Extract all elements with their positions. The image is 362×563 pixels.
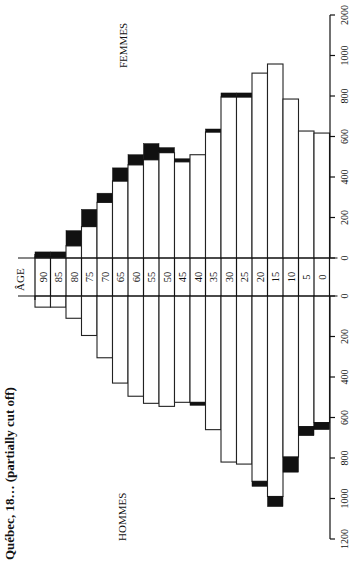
age-tick-label-15: 15 [270, 272, 281, 283]
femmes-bar-80 [66, 246, 82, 258]
hommes-bar-80 [66, 296, 82, 318]
axis-tick-label-600: 600 [339, 410, 350, 425]
femmes-bar-75 [82, 227, 98, 258]
hommes-bar-70 [97, 296, 113, 358]
age-tick-label-60: 60 [131, 272, 142, 283]
hommes-bar-5 [299, 296, 315, 427]
hommes-label: HOMMES [116, 493, 128, 541]
axis-tick-label-1000: 1000 [339, 46, 350, 66]
hommes-bar-30 [221, 296, 237, 462]
hommes-bars [35, 296, 330, 507]
age-axis-label: ÂGE [14, 268, 26, 291]
femmes-bar-45 [175, 162, 191, 258]
hommes-excess-5 [299, 427, 315, 436]
femmes-bar-10 [283, 99, 299, 258]
femmes-bar-20 [252, 73, 268, 258]
hommes-excess-15 [268, 496, 284, 506]
age-tick-label-75: 75 [84, 272, 95, 283]
axis-tick-label-800: 800 [339, 451, 350, 466]
femmes-excess-90 [35, 252, 51, 257]
age-tick-label-50: 50 [162, 272, 173, 283]
hommes-bar-55 [144, 296, 160, 403]
axis-tick-label-800: 800 [339, 89, 350, 104]
hommes-bar-75 [82, 296, 98, 335]
hommes-bar-40 [190, 296, 206, 402]
femmes-axis: 020040060080010002000 [330, 5, 350, 261]
hommes-bar-0 [314, 296, 330, 423]
hommes-bar-65 [113, 296, 129, 383]
femmes-bar-40 [190, 155, 206, 258]
age-tick-label-65: 65 [115, 272, 126, 283]
femmes-bar-55 [144, 160, 160, 258]
axis-tick-label-2000: 2000 [339, 5, 350, 25]
axis-tick-label-200: 200 [339, 329, 350, 344]
femmes-bar-15 [268, 64, 284, 258]
axis-tick-label-1200: 1200 [339, 529, 350, 549]
hommes-excess-40 [190, 402, 206, 405]
axis-tick-label-200: 200 [339, 210, 350, 225]
age-tick-label-90: 90 [38, 272, 49, 283]
hommes-bar-35 [206, 296, 222, 430]
axis-tick-label-0: 0 [339, 294, 350, 299]
age-tick-label-5: 5 [301, 274, 312, 279]
femmes-excess-60 [128, 155, 144, 165]
age-tick-label-30: 30 [224, 272, 235, 283]
femmes-excess-50 [159, 148, 175, 153]
femmes-excess-85 [51, 252, 67, 257]
hommes-axis: 020040060080010001200 [330, 294, 350, 550]
hommes-bar-20 [252, 296, 268, 481]
age-tick-label-70: 70 [100, 272, 111, 283]
age-tick-label-25: 25 [239, 272, 250, 283]
femmes-bar-0 [314, 133, 330, 258]
age-tick-label-10: 10 [286, 272, 297, 283]
femmes-excess-75 [82, 209, 98, 226]
chart-title: Québec, 18… (partially cut off) [2, 387, 17, 560]
hommes-bar-45 [175, 296, 191, 402]
femmes-bar-65 [113, 181, 129, 258]
age-tick-label-85: 85 [53, 272, 64, 283]
femmes-excess-30 [221, 93, 237, 97]
hommes-excess-10 [283, 457, 299, 472]
age-tick-label-40: 40 [193, 272, 204, 283]
femmes-label: FEMMES [117, 23, 129, 68]
femmes-bar-5 [299, 131, 315, 258]
axis-tick-label-600: 600 [339, 129, 350, 144]
age-axis-band: 908580757065605550454035302520151050 [18, 254, 338, 300]
femmes-excess-35 [206, 129, 222, 132]
femmes-excess-65 [113, 168, 129, 181]
hommes-bar-50 [159, 296, 175, 406]
age-tick-label-0: 0 [317, 274, 328, 279]
femmes-excess-25 [237, 93, 253, 97]
hommes-bar-25 [237, 296, 253, 464]
chart-title-text: Québec, 18… (partially cut off) [2, 387, 17, 560]
axis-tick-label-400: 400 [339, 170, 350, 185]
hommes-bar-60 [128, 296, 144, 396]
femmes-excess-45 [175, 159, 191, 162]
age-tick-label-45: 45 [177, 272, 188, 283]
femmes-excess-55 [144, 144, 160, 160]
hommes-excess-0 [314, 423, 330, 430]
femmes-bar-50 [159, 153, 175, 258]
age-tick-label-35: 35 [208, 272, 219, 283]
age-tick-label-80: 80 [69, 272, 80, 283]
hommes-bar-90 [35, 296, 51, 307]
femmes-bar-60 [128, 165, 144, 258]
femmes-excess-70 [97, 193, 113, 202]
hommes-bar-85 [51, 296, 67, 307]
hommes-bar-10 [283, 296, 299, 457]
femmes-bar-70 [97, 202, 113, 258]
axis-tick-label-1000: 1000 [339, 489, 350, 509]
age-tick-label-20: 20 [255, 272, 266, 283]
population-pyramid-chart: Québec, 18… (partially cut off) 90858075… [0, 0, 362, 563]
femmes-bar-25 [237, 97, 253, 258]
femmes-bars [35, 64, 330, 258]
femmes-bar-35 [206, 132, 222, 258]
femmes-bar-30 [221, 97, 237, 258]
axis-tick-label-0: 0 [339, 256, 350, 261]
age-tick-label-55: 55 [146, 272, 157, 283]
femmes-excess-80 [66, 231, 82, 246]
axis-tick-label-400: 400 [339, 370, 350, 385]
hommes-bar-15 [268, 296, 284, 496]
hommes-excess-20 [252, 481, 268, 486]
